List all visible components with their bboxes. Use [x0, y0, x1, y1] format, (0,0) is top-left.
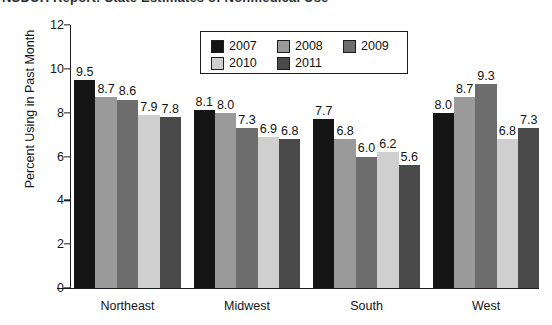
- bar: 8.7: [95, 97, 116, 288]
- bar: 8.6: [117, 100, 138, 288]
- bar-value-label: 9.3: [477, 70, 494, 83]
- bar: 7.8: [160, 117, 181, 288]
- bar-value-label: 6.8: [499, 125, 516, 138]
- legend-swatch: [277, 40, 290, 53]
- legend-item: 2008: [277, 40, 323, 53]
- legend-label: 2010: [229, 57, 257, 70]
- x-axis-category-label: West: [472, 299, 500, 313]
- bar-value-label: 7.3: [520, 114, 537, 127]
- bar-value-label: 7.8: [162, 103, 179, 116]
- legend-label: 2007: [229, 40, 257, 53]
- legend-label: 2011: [295, 57, 322, 70]
- x-axis-category-label: South: [350, 299, 383, 313]
- bar-value-label: 8.7: [97, 83, 114, 96]
- bar-value-label: 6.0: [358, 142, 375, 155]
- legend-swatch: [277, 57, 290, 70]
- bar: 9.5: [74, 80, 95, 288]
- legend-label: 2008: [295, 40, 323, 53]
- legend-swatch: [211, 57, 224, 70]
- bar: 7.9: [138, 115, 159, 288]
- bar: 5.6: [399, 165, 420, 288]
- chart-screenshot: NSDUH Report: State Estimates of Nonmedi…: [0, 0, 552, 325]
- legend-item: 2010: [211, 57, 257, 70]
- bar-value-label: 6.9: [260, 123, 277, 136]
- bar: 9.3: [475, 84, 496, 288]
- bar-value-label: 7.9: [140, 101, 157, 114]
- bar: 7.7: [313, 119, 334, 288]
- bar: 7.3: [518, 128, 539, 288]
- bar-value-label: 8.0: [217, 99, 234, 112]
- bar: 7.3: [236, 128, 257, 288]
- bar-value-label: 7.3: [238, 114, 255, 127]
- legend-item: 2011: [277, 57, 322, 70]
- bar-value-label: 8.6: [119, 85, 136, 98]
- bar: 6.9: [258, 137, 279, 288]
- bar: 6.8: [279, 139, 300, 288]
- x-axis-category-label: Northeast: [100, 299, 154, 313]
- bar-value-label: 8.0: [434, 99, 451, 112]
- legend-item: 2007: [211, 40, 257, 53]
- bar: 6.0: [356, 157, 377, 289]
- bar-value-label: 8.1: [195, 96, 212, 109]
- bar: 8.0: [433, 113, 454, 288]
- x-axis-category-label: Midwest: [224, 299, 270, 313]
- bar-value-label: 9.5: [76, 66, 93, 79]
- legend-label: 2009: [361, 40, 389, 53]
- bar-value-label: 7.7: [315, 105, 332, 118]
- legend-item: 2009: [343, 40, 389, 53]
- legend-swatch: [211, 40, 224, 53]
- legend-swatch: [343, 40, 356, 53]
- bar-value-label: 6.2: [379, 138, 396, 151]
- bar-value-label: 8.7: [456, 83, 473, 96]
- bar: 8.1: [194, 110, 215, 288]
- legend: 20072008200920102011: [200, 31, 408, 74]
- bar-value-label: 6.8: [336, 125, 353, 138]
- bar-value-label: 5.6: [401, 151, 418, 164]
- bar-value-label: 6.8: [281, 125, 298, 138]
- bar: 6.8: [497, 139, 518, 288]
- bar: 8.0: [215, 113, 236, 288]
- bar: 8.7: [454, 97, 475, 288]
- bar: 6.8: [334, 139, 355, 288]
- bar: 6.2: [377, 152, 398, 288]
